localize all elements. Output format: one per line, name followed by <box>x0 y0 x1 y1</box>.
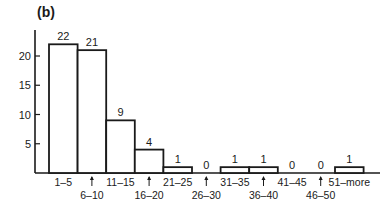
histogram-bar <box>163 167 192 173</box>
arrow-head-icon <box>204 176 208 180</box>
bar-value-label: 0 <box>203 159 209 171</box>
bar-value-label: 1 <box>232 153 238 165</box>
category-label: 21–25 <box>163 176 192 188</box>
histogram-bar <box>335 167 364 173</box>
bar-value-label: 9 <box>117 106 123 118</box>
bar-value-label: 4 <box>146 136 152 148</box>
arrow-head-icon <box>319 176 323 180</box>
histogram-bar <box>135 150 164 173</box>
category-label: 51–more <box>329 176 371 188</box>
histogram-chart: 5101520221–5216–10911–15416–20121–25026–… <box>0 0 391 211</box>
histogram-bar <box>49 44 78 173</box>
bar-value-label: 0 <box>289 159 295 171</box>
y-tick-label: 20 <box>19 50 31 62</box>
category-label: 31–35 <box>220 176 249 188</box>
category-label: 26–30 <box>192 189 221 201</box>
category-label: 6–10 <box>80 189 104 201</box>
arrow-head-icon <box>90 176 94 180</box>
arrow-head-icon <box>262 176 266 180</box>
histogram-bar <box>249 167 278 173</box>
category-label: 41–45 <box>277 176 306 188</box>
category-label: 36–40 <box>249 189 278 201</box>
histogram-bar <box>78 50 107 173</box>
bar-value-label: 1 <box>175 153 181 165</box>
y-tick-label: 15 <box>19 79 31 91</box>
category-label: 11–15 <box>106 176 135 188</box>
bar-value-label: 22 <box>57 30 69 42</box>
category-label: 46–50 <box>306 189 335 201</box>
y-tick-label: 5 <box>25 138 31 150</box>
bar-value-label: 1 <box>346 153 352 165</box>
bar-value-label: 1 <box>260 153 266 165</box>
histogram-bar <box>106 120 135 173</box>
category-label: 16–20 <box>134 189 163 201</box>
category-label: 1–5 <box>55 176 73 188</box>
bar-value-label: 21 <box>86 36 98 48</box>
y-tick-label: 10 <box>19 109 31 121</box>
histogram-bar <box>221 167 250 173</box>
bar-value-label: 0 <box>318 159 324 171</box>
arrow-head-icon <box>147 176 151 180</box>
